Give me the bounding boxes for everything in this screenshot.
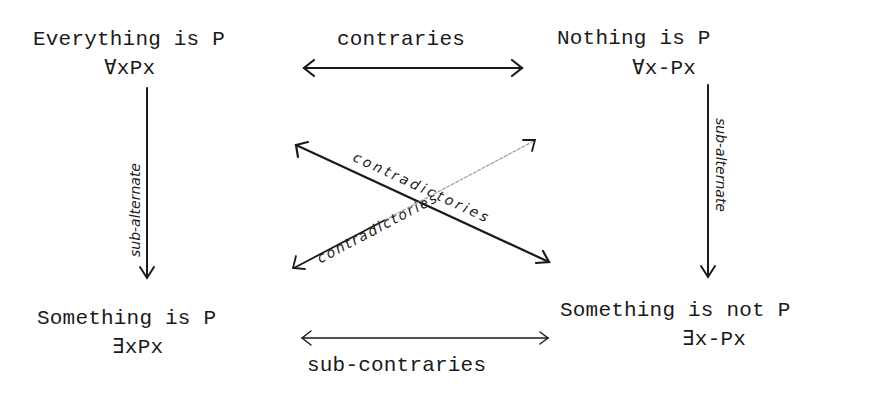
particular-negative-statement: Something is not P bbox=[560, 300, 790, 321]
universal-negative-formula: ∀x-Px bbox=[632, 58, 696, 79]
contraries-arrow bbox=[304, 60, 522, 76]
universal-negative-statement: Nothing is P bbox=[557, 28, 711, 49]
universal-affirmative-statement: Everything is P bbox=[33, 29, 225, 50]
sub-contraries-arrow bbox=[302, 331, 548, 345]
square-of-opposition: sub-alternate sub-alternate contradictor… bbox=[0, 0, 878, 395]
left-sub-alternate-label: sub-alternate bbox=[127, 163, 143, 257]
right-sub-alternate-label: sub-alternate bbox=[713, 118, 729, 212]
right-sub-alternate-arrow bbox=[701, 85, 715, 277]
particular-negative-formula: ∃x-Px bbox=[682, 329, 746, 350]
contradictories-label-2: contradictories bbox=[314, 189, 441, 266]
particular-affirmative-statement: Something is P bbox=[37, 308, 216, 329]
universal-affirmative-formula: ∀xPx bbox=[104, 58, 155, 79]
particular-affirmative-formula: ∃xPx bbox=[112, 337, 163, 358]
sub-contraries-label: sub-contraries bbox=[307, 355, 486, 376]
contradictories-label-1: contradictories bbox=[351, 149, 494, 226]
contraries-label: contraries bbox=[337, 29, 465, 50]
